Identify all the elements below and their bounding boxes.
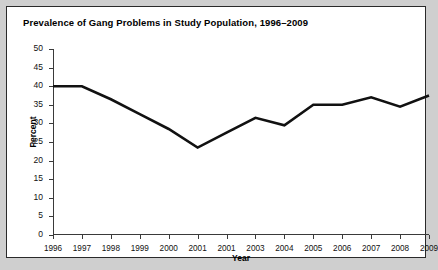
x-tick: 2006 — [342, 235, 343, 239]
y-tick-label: 45 — [34, 62, 43, 72]
chart-title: Prevalence of Gang Problems in Study Pop… — [23, 17, 308, 28]
x-tick-label: 2006 — [333, 244, 351, 253]
y-tick-label: 40 — [34, 80, 43, 90]
x-tick-label: 2001 — [217, 244, 235, 253]
y-tick-label: 25 — [34, 136, 43, 146]
y-tick-label: 10 — [34, 192, 43, 202]
y-tick-label: 50 — [34, 43, 43, 53]
x-tick: 2001 — [227, 235, 228, 239]
x-tick: 2005 — [313, 235, 314, 239]
plot-area: 05101520253035404550 1996199719981999200… — [53, 49, 429, 235]
x-tick: 1999 — [140, 235, 141, 239]
y-tick-label: 0 — [38, 229, 43, 239]
x-tick: 2007 — [371, 235, 372, 239]
x-tick-label: 2004 — [275, 244, 293, 253]
y-tick-label: 5 — [38, 210, 43, 220]
x-tick-label: 1996 — [44, 244, 62, 253]
y-tick-label: 35 — [34, 99, 43, 109]
x-tick-label: 1998 — [102, 244, 120, 253]
x-tick-label: 2003 — [246, 244, 264, 253]
x-tick: 2000 — [169, 235, 170, 239]
line-series — [53, 49, 429, 235]
x-tick-label: 2000 — [160, 244, 178, 253]
x-axis-label: Year — [53, 253, 429, 263]
x-tick: 2008 — [400, 235, 401, 239]
y-tick-label: 20 — [34, 155, 43, 165]
x-tick-label: 2005 — [304, 244, 322, 253]
x-tick-label: 2008 — [391, 244, 409, 253]
chart-figure: Prevalence of Gang Problems in Study Pop… — [6, 6, 426, 258]
x-tick-label: 2001 — [189, 244, 207, 253]
x-tick: 2004 — [284, 235, 285, 239]
x-tick-label: 2009 — [420, 244, 438, 253]
x-tick: 1996 — [53, 235, 54, 239]
x-tick: 1998 — [111, 235, 112, 239]
x-tick: 1997 — [82, 235, 83, 239]
x-tick-label: 1997 — [73, 244, 91, 253]
x-tick-label: 2007 — [362, 244, 380, 253]
x-tick: 2009 — [429, 235, 430, 239]
y-tick-label: 15 — [34, 173, 43, 183]
x-tick-label: 1999 — [131, 244, 149, 253]
x-tick: 2001 — [198, 235, 199, 239]
x-tick: 2003 — [255, 235, 256, 239]
y-tick-label: 30 — [34, 117, 43, 127]
